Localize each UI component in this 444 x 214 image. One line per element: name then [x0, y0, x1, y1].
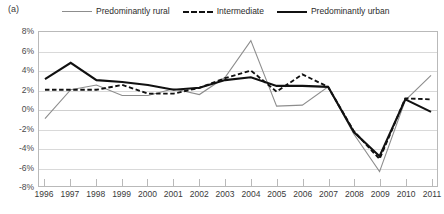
x-axis-tick [199, 179, 200, 187]
line-swatch-icon [62, 8, 92, 15]
legend-label-rural: Predominantly rural [96, 6, 170, 16]
x-axis-tick-label: 1997 [60, 189, 79, 199]
y-axis-labels: 8%6%4%2%0%-2%-4%-6%-8% [0, 27, 36, 190]
x-axis-tick [251, 179, 252, 187]
y-axis-tick-label: 2% [22, 85, 34, 95]
x-axis-tick-label: 2000 [138, 189, 157, 199]
x-axis-tick [44, 179, 45, 187]
x-axis-tick-label: 2006 [293, 189, 312, 199]
series-lines [39, 32, 437, 186]
figure-panel-a: (a) Predominantly rural Intermediate Pre… [0, 0, 444, 214]
x-axis-tick [432, 179, 433, 187]
series-line [45, 71, 431, 160]
x-axis-tick-label: 2008 [345, 189, 364, 199]
panel-label: (a) [8, 4, 19, 14]
legend-label-intermediate: Intermediate [217, 6, 264, 16]
chart-legend: Predominantly rural Intermediate Predomi… [62, 3, 438, 19]
x-axis-tick-label: 2001 [164, 189, 183, 199]
x-axis-tick-label: 1996 [35, 189, 54, 199]
x-axis-tick [329, 179, 330, 187]
x-axis-tick [173, 179, 174, 187]
x-axis-tick [225, 179, 226, 187]
y-axis-tick-label: 0% [22, 104, 34, 114]
dashed-line-swatch-icon [183, 8, 213, 15]
x-axis-tick [406, 179, 407, 187]
plot-area [38, 31, 438, 187]
x-axis-tick [277, 179, 278, 187]
x-axis-tick [354, 179, 355, 187]
x-axis-tick-label: 2004 [241, 189, 260, 199]
x-axis-tick [122, 179, 123, 187]
x-axis-tick-label: 2010 [397, 189, 416, 199]
x-axis-tick-label: 2009 [371, 189, 390, 199]
y-axis-tick-label: -2% [19, 124, 34, 134]
x-axis-tick [96, 179, 97, 187]
line-swatch-icon [277, 8, 307, 15]
series-line [45, 63, 431, 156]
x-axis-labels: 1996199719981999200020012002200320042005… [0, 189, 444, 209]
x-axis-tick-label: 1999 [112, 189, 131, 199]
y-axis-tick-label: 4% [22, 65, 34, 75]
y-axis-tick-label: -6% [19, 163, 34, 173]
x-axis-tick-label: 2002 [190, 189, 209, 199]
x-axis-tick-label: 2003 [216, 189, 235, 199]
x-axis-tick-label: 1998 [86, 189, 105, 199]
legend-label-urban: Predominantly urban [311, 6, 389, 16]
legend-item-urban: Predominantly urban [277, 6, 389, 16]
x-axis-tick-label: 2011 [423, 189, 441, 199]
x-axis-ticks [38, 179, 438, 188]
y-axis-tick-label: 8% [22, 26, 34, 36]
y-axis-tick-label: -4% [19, 143, 34, 153]
x-axis-tick-label: 2007 [319, 189, 338, 199]
legend-item-intermediate: Intermediate [183, 6, 264, 16]
x-axis-tick [380, 179, 381, 187]
x-axis-tick-label: 2005 [267, 189, 286, 199]
y-axis-tick-label: 6% [22, 46, 34, 56]
x-axis-tick [303, 179, 304, 187]
x-axis-tick [147, 179, 148, 187]
x-axis-tick [70, 179, 71, 187]
legend-item-rural: Predominantly rural [62, 6, 170, 16]
